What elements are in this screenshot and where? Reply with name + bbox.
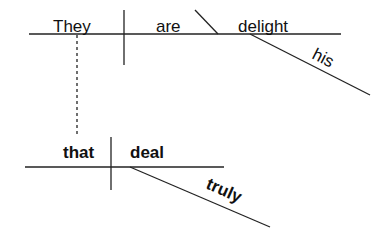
word-they: They <box>53 17 91 36</box>
his-modifier-line <box>250 34 370 95</box>
word-are: are <box>156 17 181 36</box>
word-his: his <box>309 45 337 72</box>
truly-modifier-line <box>130 167 270 227</box>
complement-divider <box>195 10 218 34</box>
word-delight: delight <box>238 17 288 36</box>
word-deal: deal <box>130 143 164 162</box>
word-that: that <box>63 143 95 162</box>
word-truly: truly <box>203 174 245 207</box>
sentence-diagram: They are delight his that deal truly <box>0 0 385 240</box>
